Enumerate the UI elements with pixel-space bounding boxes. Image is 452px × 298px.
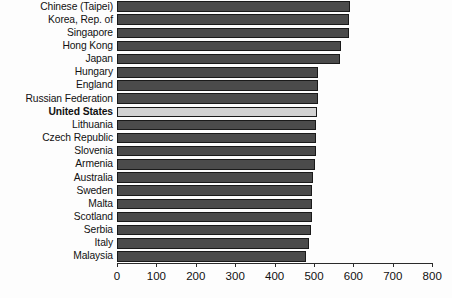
bar-australia (117, 172, 313, 183)
bar-fill (117, 225, 311, 236)
bar-fill (117, 93, 318, 104)
bar-fill (117, 212, 312, 223)
bar-fill (117, 199, 312, 210)
x-tick-label: 700 (383, 270, 402, 283)
x-tick-mark (432, 263, 433, 267)
category-label: United States (0, 106, 113, 117)
category-label: Hungary (0, 66, 113, 77)
category-label: Russian Federation (0, 93, 113, 104)
x-tick-label: 400 (265, 270, 284, 283)
x-tick-label: 200 (186, 270, 205, 283)
bar-fill (117, 67, 318, 78)
bar-singapore (117, 28, 349, 39)
bar-fill (117, 41, 341, 52)
category-label: Malaysia (0, 250, 113, 261)
bar-italy (117, 238, 309, 249)
x-tick-label: 800 (423, 270, 442, 283)
bar-fill (117, 54, 340, 65)
category-label: Serbia (0, 224, 113, 235)
bar-fill (117, 172, 313, 183)
bar-england (117, 80, 318, 91)
bar-chinese-taipei (117, 1, 350, 12)
bar-chart: Chinese (Taipei)Korea, Rep. ofSingaporeH… (0, 0, 452, 298)
category-label: Slovenia (0, 145, 113, 156)
bar-fill (117, 14, 349, 25)
bar-fill (117, 107, 317, 118)
bar-fill (117, 1, 350, 12)
x-tick-label: 600 (344, 270, 363, 283)
x-tick-label: 500 (304, 270, 323, 283)
category-label: Lithuania (0, 119, 113, 130)
x-tick-mark (353, 263, 354, 267)
bar-hong-kong (117, 41, 341, 52)
bar-korea-rep-of (117, 14, 349, 25)
bar-malta (117, 199, 312, 210)
bar-fill (117, 185, 312, 196)
category-label: Malta (0, 198, 113, 209)
x-tick-label: 100 (147, 270, 166, 283)
category-label: Singapore (0, 27, 113, 38)
plot-area (117, 0, 433, 263)
bar-sweden (117, 185, 312, 196)
category-label: Australia (0, 172, 113, 183)
category-label: Japan (0, 53, 113, 64)
x-tick-label: 300 (226, 270, 245, 283)
category-label: Italy (0, 237, 113, 248)
bar-armenia (117, 159, 315, 170)
bar-united-states (117, 107, 317, 118)
bar-hungary (117, 67, 318, 78)
category-label: Czech Republic (0, 132, 113, 143)
bar-fill (117, 120, 316, 131)
x-tick-mark (275, 263, 276, 267)
x-tick-mark (196, 263, 197, 267)
bar-russian-federation (117, 93, 318, 104)
bar-serbia (117, 225, 311, 236)
bar-scotland (117, 212, 312, 223)
bar-japan (117, 54, 340, 65)
x-tick-label: 0 (114, 270, 120, 283)
category-label: Hong Kong (0, 40, 113, 51)
bar-fill (117, 133, 316, 144)
category-label: England (0, 79, 113, 90)
bar-fill (117, 146, 316, 157)
bar-fill (117, 159, 315, 170)
bar-fill (117, 28, 349, 39)
category-label: Chinese (Taipei) (0, 1, 113, 12)
bar-fill (117, 238, 309, 249)
bar-fill (117, 80, 318, 91)
bar-malaysia (117, 251, 306, 262)
x-tick-mark (235, 263, 236, 267)
bar-slovenia (117, 146, 316, 157)
bar-fill (117, 251, 306, 262)
category-label: Armenia (0, 158, 113, 169)
x-tick-mark (117, 263, 118, 267)
x-tick-mark (314, 263, 315, 267)
category-label: Sweden (0, 185, 113, 196)
category-label: Scotland (0, 211, 113, 222)
category-label: Korea, Rep. of (0, 14, 113, 25)
x-tick-mark (393, 263, 394, 267)
category-label-column: Chinese (Taipei)Korea, Rep. ofSingaporeH… (0, 0, 113, 263)
x-tick-mark (156, 263, 157, 267)
bar-czech-republic (117, 133, 316, 144)
bar-lithuania (117, 120, 316, 131)
